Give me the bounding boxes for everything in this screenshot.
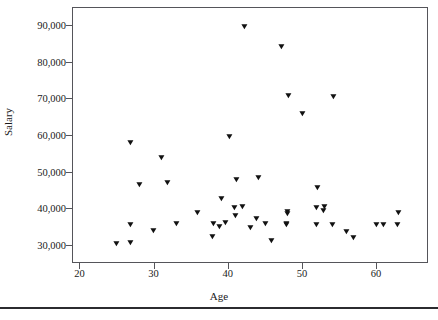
x-tick-mark (376, 263, 377, 269)
data-point (232, 205, 238, 210)
x-tick-label: 30 (148, 268, 159, 279)
data-point (241, 24, 247, 29)
x-tick-label: 20 (74, 268, 85, 279)
data-point (226, 134, 232, 139)
y-tick-label: 90,000 (37, 20, 66, 31)
y-tick-label: 40,000 (37, 203, 66, 214)
data-point (284, 209, 290, 214)
data-point (254, 216, 260, 221)
x-tick-mark (302, 263, 303, 269)
y-tick-label: 80,000 (37, 56, 66, 67)
data-point (314, 205, 320, 210)
data-point (313, 222, 319, 227)
data-point (128, 222, 134, 227)
data-point (315, 185, 321, 190)
x-tick-label: 60 (371, 268, 382, 279)
data-point (159, 155, 165, 160)
data-point (194, 210, 200, 215)
data-point (373, 223, 379, 228)
y-tick-mark (66, 208, 72, 209)
data-point (128, 241, 134, 246)
data-point (380, 223, 386, 228)
data-point (128, 140, 134, 145)
data-point (137, 182, 143, 187)
scatter-plot-figure: 30,00040,00050,00060,00070,00080,00090,0… (0, 0, 438, 320)
y-tick-label: 50,000 (37, 166, 66, 177)
data-point (255, 175, 261, 180)
data-point (350, 235, 356, 240)
x-axis-title: Age (0, 290, 438, 302)
data-point (300, 111, 306, 116)
x-tick-label: 50 (297, 268, 308, 279)
x-tick-mark (79, 263, 80, 269)
data-point (395, 222, 401, 227)
data-point (321, 205, 327, 210)
y-tick-mark (66, 62, 72, 63)
data-point (232, 213, 238, 218)
data-point (262, 222, 268, 227)
data-point (210, 222, 216, 227)
data-point (240, 204, 246, 209)
data-point (247, 225, 253, 230)
data-point (269, 238, 275, 243)
data-point (173, 221, 179, 226)
data-point (223, 220, 229, 225)
data-point (285, 93, 291, 98)
data-point (395, 210, 401, 215)
data-point (283, 221, 289, 226)
data-point (330, 94, 336, 99)
footer-rule (0, 307, 438, 309)
y-tick-mark (66, 98, 72, 99)
data-point (278, 45, 284, 50)
data-point (218, 197, 224, 202)
data-point (344, 230, 350, 235)
y-tick-mark (66, 135, 72, 136)
x-tick-mark (228, 263, 229, 269)
data-point (151, 228, 157, 233)
x-tick-mark (154, 263, 155, 269)
y-tick-label: 70,000 (37, 93, 66, 104)
data-point (329, 223, 335, 228)
y-tick-mark (66, 172, 72, 173)
data-point (113, 241, 119, 246)
y-axis-title: Salary (2, 92, 14, 152)
y-axis: 30,00040,00050,00060,00070,00080,00090,0… (0, 0, 66, 320)
data-point (209, 235, 215, 240)
x-tick-label: 40 (223, 268, 234, 279)
y-tick-mark (66, 25, 72, 26)
data-point (233, 177, 239, 182)
y-tick-label: 30,000 (37, 239, 66, 250)
y-tick-label: 60,000 (37, 130, 66, 141)
data-point (165, 180, 171, 185)
y-tick-mark (66, 245, 72, 246)
